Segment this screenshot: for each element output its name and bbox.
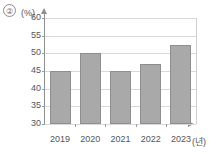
x-axis-tick-label-2023: 2023 — [166, 134, 196, 144]
y-gridline: 55 — [45, 36, 196, 37]
y-axis-arrow-icon — [41, 8, 47, 14]
y-axis-tick-mark — [42, 18, 45, 19]
y-axis-tick-mark — [42, 106, 45, 107]
x-axis-tick-label-2021: 2021 — [105, 134, 135, 144]
x-axis-tick-label-2019: 2019 — [45, 134, 75, 144]
x-axis-tick-label-2022: 2022 — [136, 134, 166, 144]
y-axis-tick-mark — [42, 89, 45, 90]
y-axis-tick-mark — [42, 124, 45, 125]
item-number-marker: ② — [3, 4, 16, 17]
y-axis-tick-mark — [42, 71, 45, 72]
y-axis-tick-label: 50 — [31, 47, 41, 57]
bar-2020 — [80, 53, 101, 124]
y-axis-tick-label: 45 — [31, 65, 41, 75]
y-gridline: 60 — [45, 18, 196, 19]
bar-2019 — [50, 71, 71, 124]
plot-right-border — [196, 18, 197, 124]
bar-2023 — [170, 45, 191, 125]
y-axis-tick-label: 55 — [31, 30, 41, 40]
y-gridline: 30 — [45, 124, 196, 125]
y-axis-tick-label: 35 — [31, 100, 41, 110]
bar-2021 — [110, 71, 131, 124]
bar-chart-plot-area: 30354045505560 — [45, 18, 196, 124]
y-axis-tick-label: 60 — [31, 12, 41, 22]
x-axis-tick-mark — [166, 124, 167, 127]
y-axis-tick-mark — [42, 36, 45, 37]
x-axis-tick-label-2020: 2020 — [75, 134, 105, 144]
y-axis-tick-mark — [42, 53, 45, 54]
bar-2022 — [140, 64, 161, 124]
x-axis-tick-mark — [136, 124, 137, 127]
x-axis-tick-mark — [75, 124, 76, 127]
y-axis-tick-label: 40 — [31, 83, 41, 93]
y-axis-tick-label: 30 — [31, 118, 41, 128]
x-axis-tick-mark — [105, 124, 106, 127]
